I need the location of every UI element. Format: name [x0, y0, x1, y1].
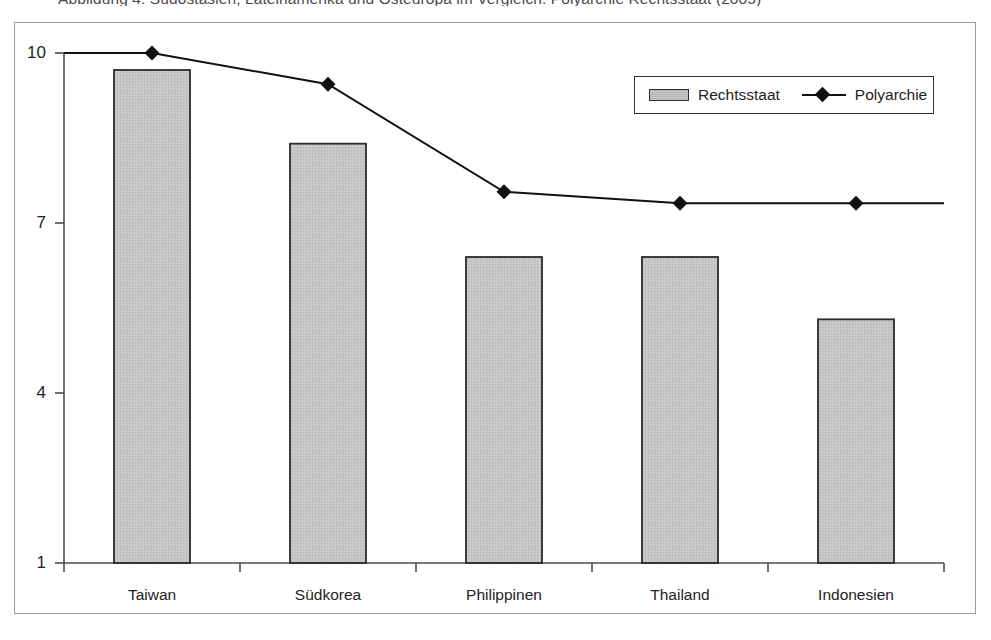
bar-swatch-icon — [649, 89, 689, 101]
marker-philippinen — [497, 184, 512, 199]
y-axis-label-7: 7 — [6, 214, 46, 231]
legend-item-rechtsstaat: Rechtsstaat — [649, 86, 780, 104]
bar-philippinen — [466, 257, 542, 563]
legend-item-polyarchie: Polyarchie — [802, 86, 927, 104]
marker-thailand — [673, 196, 688, 211]
x-axis-label-taiwan: Taiwan — [62, 587, 242, 603]
chart-legend: Rechtsstaat Polyarchie — [634, 76, 934, 114]
x-axis-label-thailand: Thailand — [590, 587, 770, 603]
bar-thailand — [642, 257, 718, 563]
y-axis-label-4: 4 — [6, 384, 46, 401]
bar-indonesien — [818, 319, 894, 563]
marker-indonesien — [849, 196, 864, 211]
legend-label-polyarchie: Polyarchie — [855, 86, 927, 104]
legend-label-rechtsstaat: Rechtsstaat — [698, 86, 780, 104]
marker-taiwan — [145, 46, 160, 61]
y-axis-label-1: 1 — [6, 554, 46, 571]
x-axis-label-südkorea: Südkorea — [238, 587, 418, 603]
y-axis-label-10: 10 — [6, 44, 46, 61]
x-axis-label-indonesien: Indonesien — [766, 587, 946, 603]
bar-südkorea — [290, 144, 366, 563]
bars-layer — [114, 70, 894, 563]
diamond-marker-icon — [802, 88, 846, 102]
bar-taiwan — [114, 70, 190, 563]
marker-südkorea — [321, 77, 336, 92]
x-axis-label-philippinen: Philippinen — [414, 587, 594, 603]
